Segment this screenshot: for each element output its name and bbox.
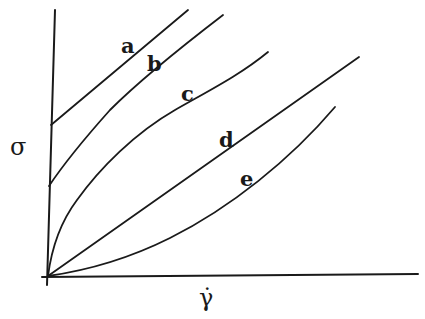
curve-d — [48, 57, 359, 276]
x-axis — [42, 274, 418, 277]
y-axis-label-sigma: σ — [10, 133, 26, 161]
curve-a — [51, 10, 188, 125]
y-axis — [47, 10, 55, 285]
label-e: e — [240, 166, 253, 191]
curve-c — [48, 52, 268, 276]
flow-curve-diagram: a b c d e σ γ̇ — [0, 0, 425, 319]
label-b: b — [147, 51, 162, 76]
label-d: d — [219, 127, 234, 152]
label-a: a — [121, 33, 135, 58]
curve-b — [49, 15, 223, 186]
label-c: c — [181, 81, 194, 106]
x-axis-label-gamma-dot: γ̇ — [199, 284, 213, 312]
